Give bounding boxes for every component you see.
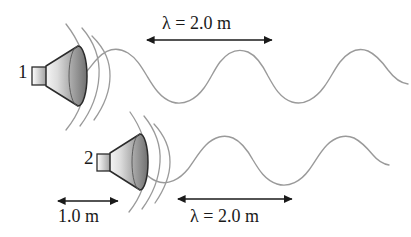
speaker-2-cone bbox=[110, 134, 148, 190]
speaker-1-cone bbox=[46, 46, 87, 106]
speaker-2 bbox=[97, 134, 148, 190]
speaker-1-label: 1 bbox=[18, 62, 28, 81]
speaker-2-label: 2 bbox=[84, 148, 94, 167]
wave-1 bbox=[78, 49, 408, 103]
diagram-canvas bbox=[0, 0, 411, 237]
speaker-2-magnet bbox=[97, 154, 111, 171]
speaker-1 bbox=[32, 46, 87, 106]
wave-2 bbox=[122, 136, 389, 185]
separation-distance-label: 1.0 m bbox=[58, 207, 99, 225]
physics-diagram-two-speakers: 1 2 λ = 2.0 m 1.0 m λ = 2.0 m bbox=[0, 0, 411, 237]
lambda-top-label: λ = 2.0 m bbox=[162, 14, 231, 32]
speaker-1-magnet bbox=[32, 67, 47, 85]
lambda-bottom-label: λ = 2.0 m bbox=[190, 207, 259, 225]
